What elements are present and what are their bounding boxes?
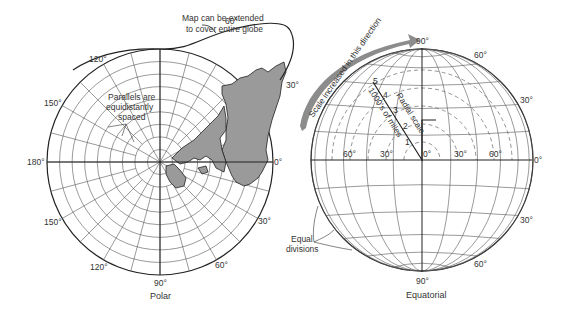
eq-label-0-center: 0° — [423, 149, 431, 159]
parallels-note-line3: spaced — [118, 112, 146, 122]
eq-label-60-left: 60° — [343, 149, 356, 159]
eq-label-60-right: 60° — [489, 149, 502, 159]
polar-label-150-bottom: 150° — [44, 217, 62, 227]
map-projections-diagram: Map can be extended to cover entire glob… — [0, 0, 568, 317]
scale-arrow-label: Scale increased in this direction — [306, 15, 383, 119]
polar-label-60-top: 60° — [225, 16, 238, 26]
polar-meridian — [166, 53, 189, 138]
polar-meridian — [51, 133, 136, 156]
polar-label-90-bottom: 90° — [154, 278, 167, 288]
equal-divisions-line1: Equal — [291, 234, 313, 244]
polar-label-120-bottom: 120° — [90, 262, 108, 272]
polar-label-60-bottom: 60° — [215, 260, 228, 270]
polar-projection: Map can be extended to cover entire glob… — [27, 13, 299, 301]
land-mass-island — [166, 164, 186, 188]
polar-meridian — [131, 186, 154, 271]
equal-divisions-line2: divisions — [286, 244, 319, 254]
polar-label-180: 180° — [27, 157, 45, 167]
polar-caption: Polar — [150, 291, 171, 301]
parallels-note-line2: equidistantly — [106, 102, 154, 112]
polar-label-120-top: 120° — [89, 54, 107, 64]
eq-label-30-bottom: 30° — [520, 215, 533, 225]
radial-tick-2: 2 — [403, 121, 408, 131]
eq-label-90-bottom: 90° — [416, 276, 429, 286]
polar-meridian — [166, 186, 189, 271]
eq-label-0-right: 0° — [534, 155, 542, 165]
eq-label-60-bottom: 60° — [474, 259, 487, 269]
polar-label-0: 0° — [274, 157, 282, 167]
eq-label-30-right: 30° — [454, 149, 467, 159]
land-mass-large — [222, 62, 286, 186]
eq-label-90-top: 90° — [416, 36, 429, 46]
polar-label-30-top: 30° — [286, 80, 299, 90]
radial-tick-1: 1 — [405, 137, 410, 147]
eq-label-30-top: 30° — [520, 95, 533, 105]
parallels-note-line1: Parallels are — [108, 92, 156, 102]
radial-tick-5: 5 — [373, 76, 378, 86]
radial-tick-3: 3 — [393, 105, 398, 115]
radial-tick-4: 4 — [383, 90, 388, 100]
polar-meridian — [51, 168, 136, 191]
polar-label-150-top: 150° — [44, 98, 62, 108]
extend-note-line1: Map can be extended — [182, 13, 264, 23]
equatorial-caption: Equatorial — [406, 290, 447, 300]
polar-label-30-bottom: 30° — [258, 216, 271, 226]
eq-label-30-left: 30° — [380, 149, 393, 159]
eq-label-60-top: 60° — [474, 50, 487, 60]
equatorial-projection: Scale increased in this direction Radial… — [286, 15, 542, 300]
